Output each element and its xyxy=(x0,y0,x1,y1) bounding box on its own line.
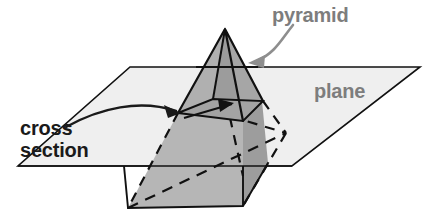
pyramid-lower-left-vertical xyxy=(124,166,128,208)
pyramid-pointer-icon xyxy=(257,25,293,61)
label-plane: plane xyxy=(314,80,365,102)
label-pyramid: pyramid xyxy=(272,4,348,26)
geometry-figure: pyramid plane cross section xyxy=(0,0,423,215)
label-cross-section-line2: section xyxy=(20,139,89,161)
pyramid-plane-diagram: pyramid plane cross section xyxy=(0,0,423,215)
label-cross-section-line1: cross xyxy=(20,117,72,139)
